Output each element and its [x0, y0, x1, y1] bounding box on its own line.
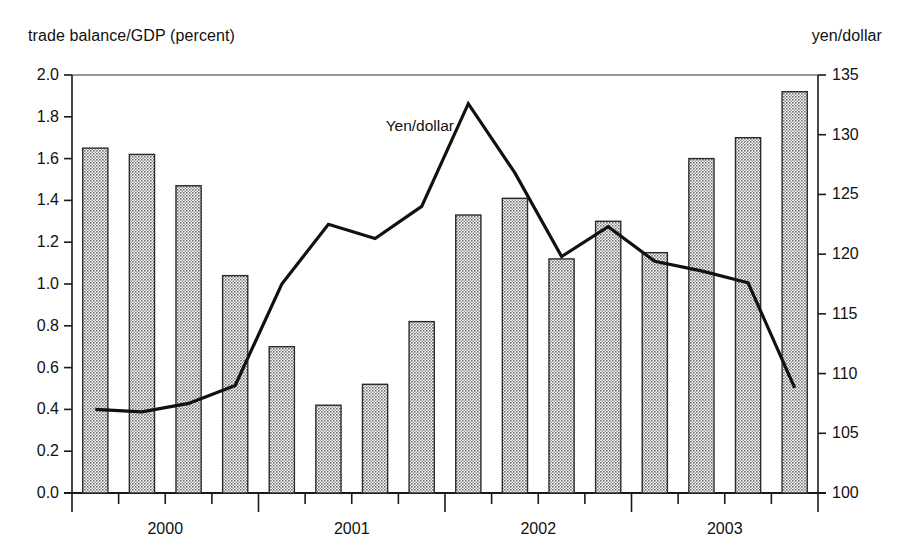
- bar: [316, 405, 341, 493]
- bar: [596, 221, 621, 493]
- x-axis-label: 2002: [520, 520, 556, 538]
- bar: [129, 154, 154, 493]
- right-tick-label: 125: [832, 185, 859, 203]
- right-tick-label: 115: [832, 305, 858, 323]
- bar: [456, 215, 481, 493]
- right-tick-label: 105: [832, 424, 859, 442]
- bar: [549, 259, 574, 493]
- right-tick-label: 135: [832, 66, 859, 84]
- bar: [176, 186, 201, 493]
- right-tick-label: 120: [832, 245, 859, 263]
- right-tick-label: 100: [832, 484, 859, 502]
- left-tick-label: 1.0: [37, 275, 59, 293]
- x-axis-label: 2000: [147, 520, 183, 538]
- chart-figure: trade balance/GDP (percent) yen/dollar 2…: [0, 0, 900, 554]
- left-tick-label: 0.8: [37, 317, 59, 335]
- right-tick-label: 110: [832, 365, 858, 383]
- bar: [269, 347, 294, 493]
- bar: [83, 148, 108, 493]
- bar: [502, 198, 527, 493]
- left-tick-label: 0.4: [37, 400, 59, 418]
- bar: [642, 253, 667, 493]
- x-axis-label: 2003: [707, 520, 743, 538]
- left-tick-label: 1.4: [37, 191, 59, 209]
- x-axis-label: 2001: [334, 520, 370, 538]
- left-tick-label: 2.0: [37, 66, 59, 84]
- line-series-annotation: Yen/dollar: [386, 117, 454, 135]
- left-tick-label: 0.2: [37, 442, 59, 460]
- bar: [409, 322, 434, 493]
- bar: [735, 138, 760, 493]
- plot-canvas: [0, 0, 900, 554]
- right-tick-label: 130: [832, 126, 859, 144]
- left-tick-label: 1.2: [37, 233, 59, 251]
- bar: [362, 384, 387, 493]
- left-tick-label: 1.6: [37, 150, 59, 168]
- bar: [689, 159, 714, 493]
- left-tick-label: 1.8: [37, 108, 59, 126]
- left-tick-label: 0.6: [37, 359, 59, 377]
- left-tick-label: 0.0: [37, 484, 59, 502]
- bar: [782, 92, 807, 493]
